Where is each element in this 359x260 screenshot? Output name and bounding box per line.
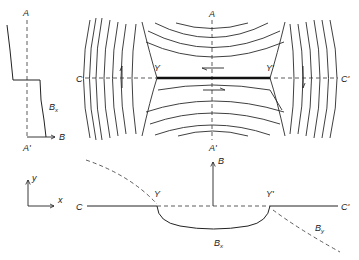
label-Bx: Bx <box>49 102 59 113</box>
label-C-prime: C' <box>341 74 349 84</box>
label-A: A <box>22 8 29 18</box>
label-By-bottom: By <box>315 223 325 234</box>
label-Y-prime: Y' <box>266 63 274 73</box>
label-Y-bottom: Y <box>154 189 161 199</box>
left-profile-panel: A A' B Bx <box>7 8 65 153</box>
bx-profile-curve <box>7 25 46 137</box>
upper-field-lines <box>146 23 284 57</box>
bottom-profile-panel: x y B C C' Y Y' Bx By <box>28 156 349 252</box>
label-C-prime-bottom: C' <box>341 202 349 212</box>
label-A-prime: A' <box>22 143 31 153</box>
label-C: C <box>76 74 83 84</box>
label-B-axis: B <box>59 132 65 142</box>
reconnection-diagram: A A' B Bx <box>0 0 359 260</box>
lower-field-lines <box>146 85 284 136</box>
label-x: x <box>57 195 63 205</box>
bx-curve <box>157 206 270 229</box>
label-y: y <box>31 173 37 183</box>
by-curve-left <box>86 160 157 204</box>
label-Y-prime-bottom: Y' <box>266 189 274 199</box>
label-C-bottom: C <box>76 202 83 212</box>
label-A-top: A <box>208 9 215 19</box>
field-line-panel: A A' C C' Y Y' <box>76 9 349 153</box>
right-field-lines <box>290 20 337 138</box>
label-Bx-bottom: Bx <box>214 238 224 249</box>
by-curve-right <box>273 210 340 252</box>
label-A-prime-top: A' <box>208 143 217 153</box>
label-Y: Y <box>154 63 161 73</box>
label-B-bottom: B <box>218 156 224 166</box>
left-field-lines <box>84 18 137 140</box>
